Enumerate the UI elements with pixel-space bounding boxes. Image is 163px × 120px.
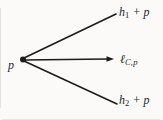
scan-artifact-left-edge — [0, 8, 1, 108]
vector-rays-diagram: p h1 + p ℓC,p h2 + p — [0, 0, 163, 120]
ray-lcp-line — [24, 59, 108, 60]
arrowhead-icon — [107, 56, 115, 61]
point-label: p — [8, 58, 14, 72]
ray-h1-line — [24, 14, 116, 58]
label-h1-suffix: + p — [129, 5, 149, 19]
label-ell-subscript: C,p — [125, 57, 138, 67]
ray-h2-line — [24, 61, 117, 104]
point-dot — [20, 57, 26, 63]
point-label-text: p — [8, 58, 14, 72]
label-h2-suffix: + p — [129, 93, 149, 107]
label-h1-plus-p: h1 + p — [119, 5, 150, 19]
label-h2-plus-p: h2 + p — [119, 93, 150, 107]
label-ell-c-p: ℓC,p — [120, 52, 138, 66]
scan-artifact-bottom-edge — [2, 119, 160, 120]
